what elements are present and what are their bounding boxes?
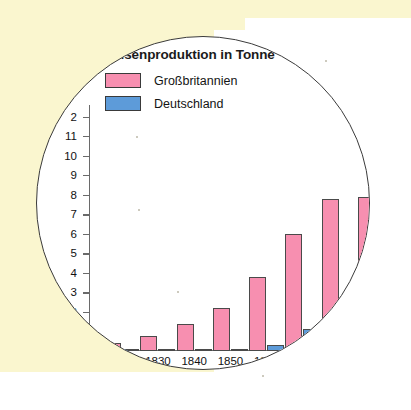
bar-grossbritannien	[140, 336, 157, 351]
y-axis-line	[89, 105, 90, 351]
y-tick	[83, 195, 89, 196]
paper-speck	[138, 209, 140, 211]
paper-speck	[136, 136, 138, 138]
bar-deutschland	[122, 349, 139, 351]
y-tick	[83, 156, 89, 157]
paper-speck	[307, 69, 309, 71]
y-tick-label: 6	[71, 228, 77, 240]
y-tick	[83, 136, 89, 137]
magnifier-lens: heisenproduktion in Tonne Großbritannien…	[36, 36, 370, 370]
y-tick	[83, 214, 89, 215]
x-tick-label: 1830	[145, 355, 171, 367]
paper-speck	[325, 60, 327, 62]
y-tick	[83, 234, 89, 235]
y-tick-label: 10	[64, 150, 77, 162]
y-tick-label: 5	[71, 247, 77, 259]
y-tick-label: 2	[71, 306, 77, 318]
y-tick	[83, 253, 89, 254]
bar-deutschland	[303, 329, 320, 351]
page-background-corner	[0, 0, 245, 30]
lens-content: heisenproduktion in Tonne Großbritannien…	[36, 36, 370, 370]
y-tick-label: 8	[71, 189, 77, 201]
y-tick-label: 7	[71, 208, 77, 220]
bar-deutschland	[231, 349, 248, 351]
x-tick-label: 1850	[218, 355, 244, 367]
y-tick-label: 11	[65, 130, 77, 142]
x-tick-label: 1860	[254, 355, 280, 367]
y-tick	[83, 175, 89, 176]
screenshot-root: heisenproduktion in Tonne Großbritannien…	[0, 0, 411, 410]
y-tick	[83, 312, 89, 313]
y-tick-label: 2	[71, 111, 77, 123]
bar-grossbritannien	[249, 277, 266, 351]
y-tick	[83, 331, 89, 332]
x-tick-label: 0	[119, 355, 125, 367]
y-tick-label: 9	[71, 169, 77, 181]
paper-speck	[262, 375, 264, 377]
y-tick	[83, 273, 89, 274]
legend-item-grossbritannien: Großbritannien	[105, 71, 237, 90]
chart-title: heisenproduktion in Tonne	[105, 47, 275, 62]
bar-grossbritannien	[322, 199, 339, 351]
x-tick-label: 1840	[181, 355, 207, 367]
plot-area: 2345678910112018301840185018601	[89, 105, 370, 351]
y-tick-label: 4	[71, 267, 77, 279]
bar-deutschland	[340, 306, 357, 351]
legend-label-grossbritannien: Großbritannien	[154, 74, 237, 88]
bar-grossbritannien	[104, 343, 121, 351]
bar-deutschland	[158, 349, 175, 351]
paper-speck	[177, 291, 179, 293]
bar-grossbritannien	[285, 234, 302, 351]
y-tick-label: 3	[71, 286, 77, 298]
bar-deutschland	[195, 349, 212, 351]
x-tick-label: 1	[300, 355, 306, 367]
y-tick	[83, 117, 89, 118]
bar-grossbritannien	[177, 324, 194, 351]
bar-grossbritannien	[213, 308, 230, 351]
bar-grossbritannien	[358, 197, 370, 351]
legend-swatch-grossbritannien	[105, 73, 141, 88]
bar-deutschland	[267, 345, 284, 351]
y-tick	[83, 292, 89, 293]
